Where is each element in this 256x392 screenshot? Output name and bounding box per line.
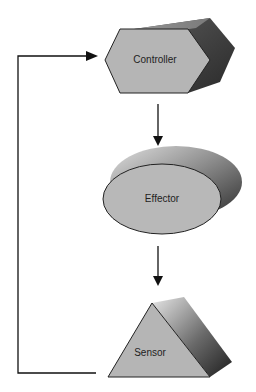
sensor-label: Sensor [120,347,180,358]
effector-label: Effector [122,193,202,204]
arrow-controller-to-effector [153,104,163,146]
sensor-node [108,297,232,377]
effector-node [103,146,242,234]
feedback-arrow [18,51,98,373]
controller-label: Controller [120,54,190,65]
arrow-effector-to-sensor [153,246,163,286]
